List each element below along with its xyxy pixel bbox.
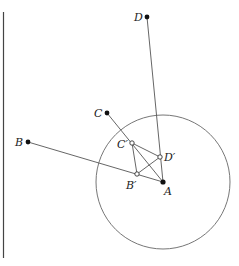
label-C-prime: C′ (117, 138, 128, 151)
label-D: D (133, 11, 143, 24)
point-A (160, 179, 165, 184)
line-Cp-Dp (132, 143, 160, 157)
line-Dp-Bp (137, 157, 160, 174)
point-B (26, 140, 31, 145)
point-B-prime (135, 172, 139, 176)
label-B-prime: B′ (125, 179, 137, 192)
inversion-diagram: D C B A C′ D′ B′ (0, 0, 239, 266)
point-D (145, 15, 150, 20)
label-D-prime: D′ (163, 151, 176, 164)
point-D-prime (158, 155, 162, 159)
point-C-prime (130, 141, 134, 145)
line-Cp-Bp (132, 143, 137, 174)
label-B: B (14, 136, 23, 149)
label-C: C (94, 107, 103, 120)
line-C-A (107, 113, 163, 182)
point-C (105, 111, 110, 116)
label-A: A (163, 185, 172, 198)
